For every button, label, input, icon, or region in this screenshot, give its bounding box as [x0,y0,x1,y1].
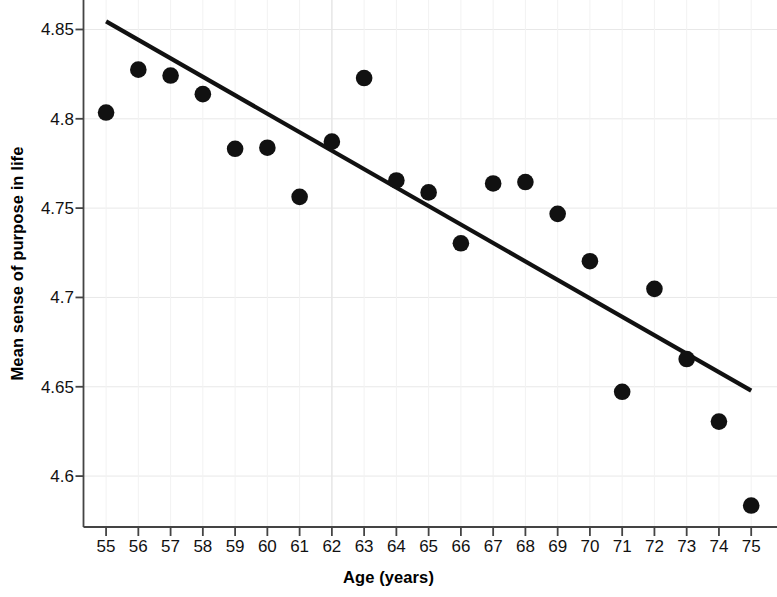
y-axis-tick-label: 4.6 [12,468,74,485]
data-point [356,70,373,87]
data-point [743,497,760,514]
data-point [678,351,695,368]
y-axis-tick-label: 4.65 [12,378,74,395]
data-point [324,133,341,150]
x-axis-tick-labels: 5556575859606162636465666768697071727374… [0,538,777,564]
data-point [227,141,244,158]
data-point [388,172,405,189]
data-point [582,253,599,270]
data-point [485,175,502,192]
data-point [130,61,147,78]
y-axis-tick-label: 4.7 [12,289,74,306]
data-point [420,184,437,201]
data-point [453,235,470,252]
x-axis-tick-label: 75 [731,538,771,555]
data-point [259,139,276,156]
y-axis-tick-label: 4.8 [12,110,74,127]
data-point [291,189,308,206]
data-point [162,67,179,84]
data-point [98,104,115,121]
data-point [614,383,631,400]
x-axis-title: Age (years) [0,568,777,587]
data-point [711,413,728,430]
scatter-chart-figure: Mean sense of purpose in life 4.64.654.7… [0,0,777,597]
y-axis-tick-label: 4.85 [12,21,74,38]
axis-lines [84,0,777,527]
y-axis-tick-labels: 4.64.654.74.754.84.85 [8,0,74,597]
data-point [195,86,212,103]
plot-canvas [0,0,777,597]
data-point [549,206,566,223]
y-axis-tick-label: 4.75 [12,200,74,217]
data-point [646,281,663,298]
data-point [517,174,534,191]
gridlines [84,0,777,527]
